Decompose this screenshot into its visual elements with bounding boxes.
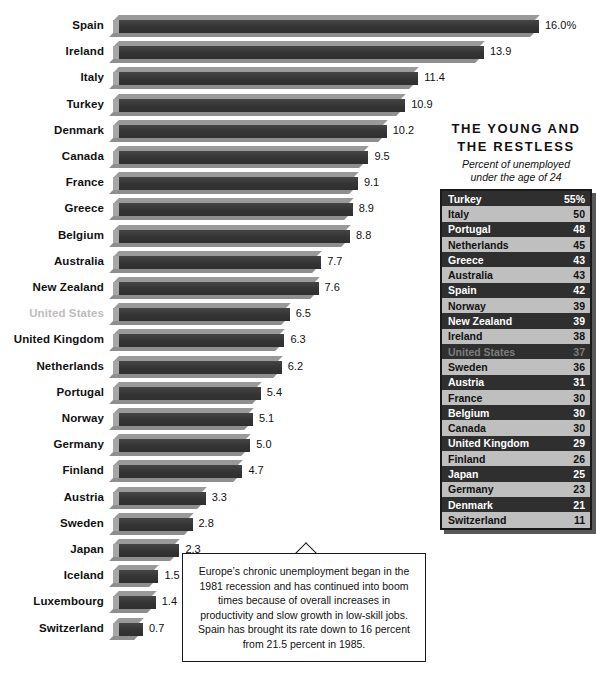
bar-category-label: Austria <box>0 484 104 510</box>
bar-category-label: Portugal <box>0 379 104 405</box>
bar-left-cap <box>113 334 119 347</box>
table-country-value: 25 <box>555 468 585 480</box>
bar-3d <box>113 225 350 246</box>
bar-category-label: Turkey <box>0 91 104 117</box>
bar-bottom-shadow <box>109 321 284 325</box>
bar-category-label: United Kingdom <box>0 326 104 352</box>
bar-3d <box>113 487 206 508</box>
bar-front-face <box>119 177 358 190</box>
bar-category-label: Italy <box>0 64 104 90</box>
bar-value-label: 8.8 <box>356 222 371 248</box>
table-country-name: Switzerland <box>448 514 555 526</box>
bar-bottom-shadow <box>109 426 248 430</box>
bar-left-cap <box>113 596 119 609</box>
bar-category-label: Canada <box>0 143 104 169</box>
table-row: New Zealand39 <box>442 313 590 328</box>
bar-front-face <box>119 46 484 59</box>
bar-3d <box>113 172 358 193</box>
callout-text: Europe’s chronic unemployment began in t… <box>198 565 410 650</box>
bar-category-label: Iceland <box>0 562 104 588</box>
table-row: United Kingdom29 <box>442 436 590 451</box>
bar-category-label: Australia <box>0 248 104 274</box>
bar-category-label: Japan <box>0 536 104 562</box>
table-country-value: 11 <box>555 514 585 526</box>
young-unemployed-table: Turkey55%Italy50Portugal48Netherlands45G… <box>440 189 592 530</box>
table-row: Spain42 <box>442 283 590 298</box>
bar-front-face <box>119 99 405 112</box>
bar-value-label: 13.9 <box>490 38 511 64</box>
bar-value-label: 1.4 <box>162 588 177 614</box>
bar-left-cap <box>113 20 119 33</box>
bar-left-cap <box>113 282 119 295</box>
table-country-name: Italy <box>448 208 555 220</box>
bar-value-label: 5.1 <box>259 405 274 431</box>
panel-subtitle-line2: under the age of 24 <box>436 171 596 184</box>
bar-bottom-shadow <box>109 190 353 194</box>
bar-3d <box>113 303 290 324</box>
bar-3d <box>113 15 539 36</box>
table-country-name: France <box>448 392 555 404</box>
bar-value-label: 7.7 <box>327 248 342 274</box>
bar-bottom-shadow <box>109 112 400 116</box>
bar-bottom-shadow <box>109 269 316 273</box>
bar-left-cap <box>113 72 119 85</box>
panel-title-line2: THE RESTLESS <box>436 138 596 156</box>
table-country-name: Australia <box>448 269 555 281</box>
bar-left-cap <box>113 99 119 112</box>
table-country-value: 48 <box>555 223 585 235</box>
bar-left-cap <box>113 439 119 452</box>
bar-value-label: 6.2 <box>288 353 303 379</box>
table-country-name: Austria <box>448 376 555 388</box>
bar-3d <box>113 198 353 219</box>
bar-category-label: Ireland <box>0 38 104 64</box>
bar-3d <box>113 539 179 560</box>
bar-bottom-shadow <box>109 609 151 613</box>
table-country-value: 21 <box>555 499 585 511</box>
bar-bottom-shadow <box>109 478 237 482</box>
bar-bottom-shadow <box>109 85 413 89</box>
bar-left-cap <box>113 203 119 216</box>
bar-front-face <box>119 518 193 531</box>
bar-3d <box>113 146 368 167</box>
panel-title-line1: THE YOUNG AND <box>436 120 596 138</box>
bar-3d <box>113 565 158 586</box>
bar-bottom-shadow <box>109 531 187 535</box>
bar-value-label: 7.6 <box>325 274 340 300</box>
table-country-value: 39 <box>555 315 585 327</box>
bar-bottom-shadow <box>109 243 345 247</box>
table-country-name: United States <box>448 346 555 358</box>
table-country-value: 26 <box>555 453 585 465</box>
bar-left-cap <box>113 465 119 478</box>
bar-value-label: 5.0 <box>256 431 271 457</box>
bar-left-cap <box>113 125 119 138</box>
bar-front-face <box>119 623 143 636</box>
table-row: Ireland38 <box>442 329 590 344</box>
table-country-name: Belgium <box>448 407 555 419</box>
bar-left-cap <box>113 151 119 164</box>
bar-front-face <box>119 72 418 85</box>
table-country-value: 42 <box>555 284 585 296</box>
table-country-name: Ireland <box>448 330 555 342</box>
bar-value-label: 5.4 <box>267 379 282 405</box>
table-country-value: 36 <box>555 361 585 373</box>
bar-category-label: Finland <box>0 457 104 483</box>
bar-bottom-shadow <box>109 138 382 142</box>
bar-front-face <box>119 125 387 138</box>
bar-value-label: 10.2 <box>393 117 414 143</box>
table-country-value: 45 <box>555 239 585 251</box>
table-country-value: 43 <box>555 269 585 281</box>
bar-3d <box>113 408 253 429</box>
bar-category-label: Belgium <box>0 222 104 248</box>
table-row: Netherlands45 <box>442 237 590 252</box>
bar-left-cap <box>113 492 119 505</box>
table-row: Italy50 <box>442 206 590 221</box>
table-row: Belgium30 <box>442 405 590 420</box>
bar-front-face <box>119 492 206 505</box>
bar-3d <box>113 329 284 350</box>
table-row: Greece43 <box>442 252 590 267</box>
bar-row: Spain16.0% <box>0 12 596 38</box>
bar-bottom-shadow <box>109 452 245 456</box>
bar-left-cap <box>113 46 119 59</box>
table-row: Finland26 <box>442 451 590 466</box>
bar-category-label: Norway <box>0 405 104 431</box>
